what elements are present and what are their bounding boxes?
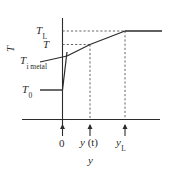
temperature-profile-figure: TL T Ti metal T0 T 0 y (t) yL y <box>0 0 169 175</box>
tick-label-zero: 0 <box>59 138 65 149</box>
tick-label-yl: yL <box>116 137 125 151</box>
main-temperature-profile <box>67 31 125 56</box>
tick-arrow-yl <box>123 124 128 136</box>
tick-label-yt: y (t) <box>80 137 98 148</box>
tick-arrow-yt <box>88 124 93 136</box>
label-t: T <box>43 39 49 53</box>
x-axis-title: y <box>88 155 93 166</box>
steep-rise-at-origin <box>63 52 68 90</box>
label-t-l: TL <box>36 25 47 39</box>
tick-arrow-zero <box>60 124 65 136</box>
label-t-zero: T0 <box>22 84 32 98</box>
y-axis-title: T <box>5 46 16 52</box>
label-t-i-metal: Ti metal <box>20 55 47 69</box>
